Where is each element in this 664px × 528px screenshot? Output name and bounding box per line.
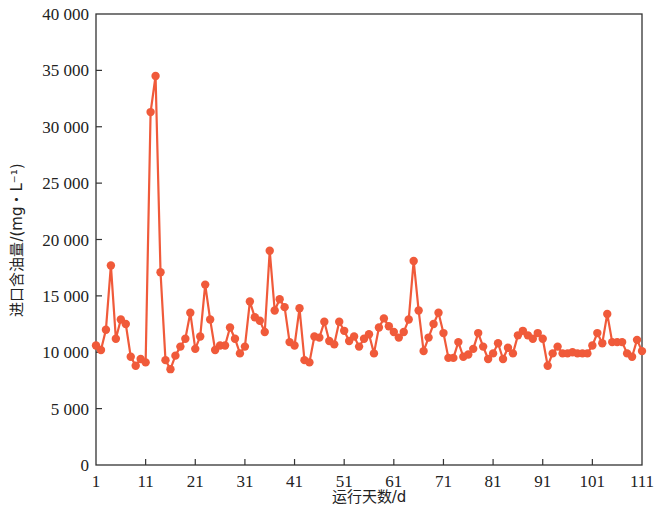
data-point-marker <box>275 295 283 303</box>
y-tick-label: 10 000 <box>42 343 89 362</box>
data-point-marker <box>489 349 497 357</box>
data-point-marker <box>449 354 457 362</box>
data-point-marker <box>261 328 269 336</box>
data-point-marker <box>598 339 606 347</box>
data-point-marker <box>315 333 323 341</box>
x-tick-label: 91 <box>534 472 551 491</box>
data-point-marker <box>424 333 432 341</box>
data-point-marker <box>161 356 169 364</box>
y-tick-label: 35 000 <box>42 61 89 80</box>
data-point-marker <box>638 347 646 355</box>
data-point-marker <box>375 323 383 331</box>
data-point-marker <box>122 320 130 328</box>
data-point-marker <box>429 320 437 328</box>
data-point-marker <box>156 268 164 276</box>
data-point-marker <box>400 328 408 336</box>
y-tick-label: 25 000 <box>42 174 89 193</box>
data-point-marker <box>350 332 358 340</box>
data-point-marker <box>588 341 596 349</box>
data-point-marker <box>355 342 363 350</box>
data-point-marker <box>206 315 214 323</box>
y-axis-title: 进口含油量/(mg・L⁻¹) <box>8 163 26 316</box>
data-point-marker <box>266 247 274 255</box>
data-point-marker <box>340 327 348 335</box>
data-point-marker <box>479 342 487 350</box>
y-tick-label: 0 <box>81 456 90 475</box>
x-tick-label: 101 <box>580 472 606 491</box>
data-point-marker <box>270 306 278 314</box>
data-point-marker <box>633 336 641 344</box>
data-point-marker <box>405 315 413 323</box>
data-point-marker <box>191 345 199 353</box>
x-tick-label: 21 <box>187 472 204 491</box>
data-point-marker <box>434 309 442 317</box>
data-point-marker <box>201 280 209 288</box>
y-tick-label: 5 000 <box>51 400 89 419</box>
data-point-marker <box>409 257 417 265</box>
x-axis-ticks: 1112131415161718191101111 <box>92 459 654 491</box>
data-point-marker <box>509 349 517 357</box>
data-series-line <box>96 76 642 369</box>
data-point-marker <box>474 329 482 337</box>
series-polyline <box>96 76 642 369</box>
data-point-marker <box>618 338 626 346</box>
x-tick-label: 31 <box>236 472 253 491</box>
y-tick-label: 20 000 <box>42 231 89 250</box>
data-point-marker <box>231 335 239 343</box>
data-point-marker <box>256 316 264 324</box>
data-point-marker <box>548 349 556 357</box>
data-point-marker <box>186 309 194 317</box>
data-point-marker <box>543 362 551 370</box>
data-point-marker <box>499 355 507 363</box>
x-axis-title: 运行天数/d <box>332 488 407 506</box>
data-point-marker <box>141 358 149 366</box>
y-tick-label: 15 000 <box>42 287 89 306</box>
data-point-marker <box>290 341 298 349</box>
data-point-marker <box>112 335 120 343</box>
data-point-marker <box>246 297 254 305</box>
data-point-marker <box>603 310 611 318</box>
data-point-marker <box>553 342 561 350</box>
y-tick-label: 30 000 <box>42 118 89 137</box>
data-point-marker <box>454 338 462 346</box>
data-point-marker <box>196 332 204 340</box>
data-point-marker <box>414 306 422 314</box>
data-point-marker <box>146 108 154 116</box>
data-point-marker <box>107 261 115 269</box>
data-point-marker <box>365 330 373 338</box>
data-point-marker <box>295 304 303 312</box>
data-point-marker <box>236 349 244 357</box>
y-tick-label: 40 000 <box>42 5 89 24</box>
data-point-marker <box>380 314 388 322</box>
data-point-marker <box>280 303 288 311</box>
data-point-marker <box>539 335 547 343</box>
data-point-marker <box>127 353 135 361</box>
x-tick-label: 71 <box>435 472 452 491</box>
data-point-marker <box>469 345 477 353</box>
data-point-marker <box>241 342 249 350</box>
y-axis-ticks: 05 00010 00015 00020 00025 00030 00035 0… <box>42 5 102 475</box>
data-point-marker <box>628 353 636 361</box>
data-point-marker <box>151 72 159 80</box>
x-tick-label: 81 <box>485 472 502 491</box>
data-point-marker <box>226 323 234 331</box>
x-tick-label: 111 <box>630 472 654 491</box>
data-point-marker <box>166 365 174 373</box>
data-point-marker <box>181 335 189 343</box>
data-point-marker <box>419 347 427 355</box>
data-point-marker <box>97 346 105 354</box>
x-tick-label: 1 <box>92 472 101 491</box>
plot-frame <box>96 14 642 465</box>
line-chart: 1112131415161718191101111 05 00010 00015… <box>0 0 664 528</box>
data-point-marker <box>176 342 184 350</box>
data-point-marker <box>305 358 313 366</box>
data-point-marker <box>593 329 601 337</box>
data-point-marker <box>439 329 447 337</box>
data-point-marker <box>335 318 343 326</box>
data-series-markers <box>92 72 646 374</box>
data-point-marker <box>320 318 328 326</box>
data-point-marker <box>132 362 140 370</box>
data-point-marker <box>330 340 338 348</box>
x-tick-label: 41 <box>286 472 303 491</box>
data-point-marker <box>171 351 179 359</box>
